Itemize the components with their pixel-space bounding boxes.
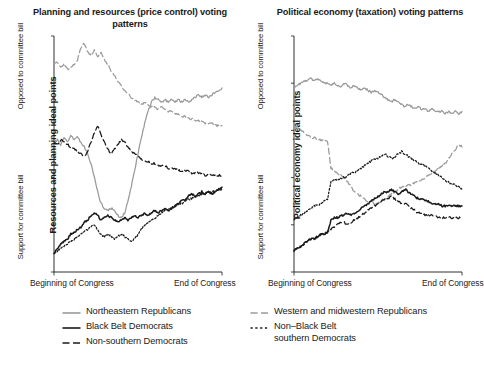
series-line — [54, 188, 222, 253]
legend-swatch-dashed-icon — [62, 337, 81, 349]
series-line — [294, 78, 462, 115]
series-line — [294, 151, 462, 220]
legend-column-right: Western and midwestern RepublicansNon–Bl… — [250, 306, 475, 347]
series-line — [54, 187, 222, 253]
plot-area-planning — [0, 0, 239, 308]
legend: Northeastern RepublicansBlack Belt Democ… — [0, 306, 479, 358]
legend-item-label: Non-southern Democrats — [86, 336, 188, 348]
legend-item[interactable]: Northeastern Republicans — [62, 306, 252, 321]
legend-item[interactable]: Western and midwestern Republicans — [250, 306, 475, 321]
panel-political-economy: Political economy (taxation) voting patt… — [240, 0, 479, 308]
legend-swatch-dashed-icon — [250, 307, 269, 319]
series-line — [294, 126, 462, 204]
legend-swatch-dotted-icon — [250, 322, 269, 334]
legend-swatch-solid-icon — [62, 322, 81, 334]
legend-item[interactable]: Non–Black Belt southern Democrats — [250, 321, 475, 347]
legend-item[interactable]: Black Belt Democrats — [62, 321, 252, 336]
legend-item-label: Black Belt Democrats — [86, 321, 173, 333]
legend-swatch-solid-icon — [62, 307, 81, 319]
series-line — [54, 43, 222, 126]
series-line — [294, 189, 462, 250]
panel-planning-and-resources: Planning and resources (price control) v… — [0, 0, 239, 308]
legend-item-label: Northeastern Republicans — [86, 306, 191, 318]
plot-area-taxation — [240, 0, 479, 308]
legend-column-left: Northeastern RepublicansBlack Belt Democ… — [62, 306, 252, 351]
legend-item[interactable]: Non-southern Democrats — [62, 336, 252, 351]
legend-item-label: Non–Black Belt southern Democrats — [274, 321, 356, 344]
legend-item-label: Western and midwestern Republicans — [274, 306, 427, 318]
chart-panels: Planning and resources (price control) v… — [0, 0, 479, 308]
